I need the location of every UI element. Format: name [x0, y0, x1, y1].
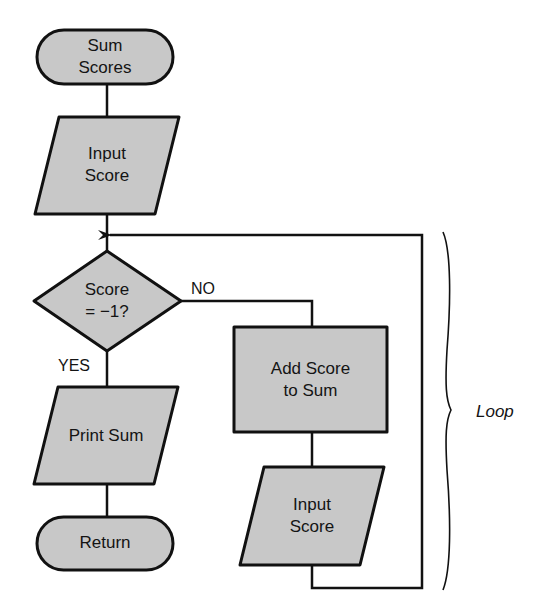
edge-decision-no: [181, 301, 312, 327]
label-input-score-1: Input Score: [47, 143, 167, 187]
label-return: Return: [37, 532, 173, 554]
label-decision: Score = −1?: [47, 279, 167, 323]
label-print-sum: Print Sum: [46, 425, 166, 447]
loop-brace-icon: [443, 232, 451, 590]
label-add-score: Add Score to Sum: [234, 358, 387, 402]
loop-annotation-label: Loop: [476, 402, 514, 422]
edge-label-yes: YES: [58, 357, 90, 375]
edge-label-no: NO: [191, 280, 215, 298]
label-sum-scores: Sum Scores: [37, 35, 173, 79]
label-input-score-2: Input Score: [252, 494, 372, 538]
flowchart-canvas: Sum Scores Input Score Score = −1? Add S…: [0, 0, 547, 614]
